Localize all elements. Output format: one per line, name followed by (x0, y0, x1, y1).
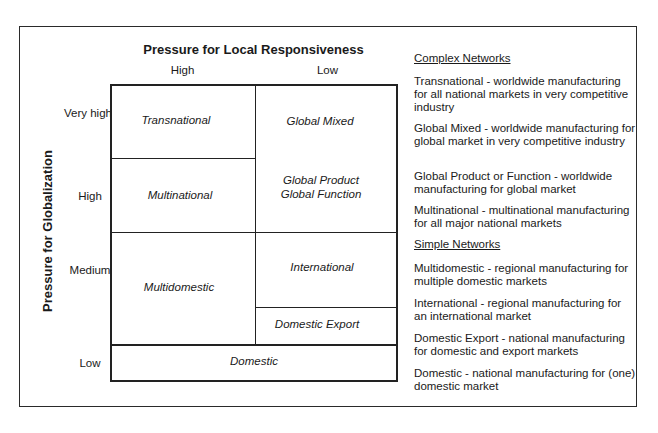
cell-global-product-line2: Global Function (281, 187, 362, 201)
legend-header-complex: Complex Networks (414, 52, 511, 65)
legend-item-global-product: Global Product or Function - worldwide m… (414, 170, 636, 196)
cell-domestic-export: Domestic Export (275, 317, 359, 331)
legend-item-domestic: Domestic - national manufacturing for (o… (414, 367, 636, 393)
grid-border-bottom (110, 380, 398, 382)
cell-global-product: Global Product Global Function (281, 173, 362, 201)
row-label-very-high: Very high (63, 107, 113, 120)
grid-divider-left-1 (110, 158, 256, 159)
legend-item-multidomestic: Multidomestic - regional manufacturing f… (414, 262, 636, 288)
grid-border-top (110, 84, 398, 86)
cell-domestic: Domestic (230, 354, 278, 368)
legend-item-transnational: Transnational - worldwide manufacturing … (414, 75, 636, 114)
top-axis-title: Pressure for Local Responsiveness (110, 42, 397, 57)
legend-item-global-mixed: Global Mixed - worldwide manufacturing f… (414, 122, 636, 148)
grid-divider-right (255, 307, 398, 308)
cell-global-product-line1: Global Product (281, 173, 362, 187)
grid-center-divider (255, 84, 256, 344)
grid-divider-domestic (110, 344, 398, 346)
cell-transnational: Transnational (142, 113, 211, 127)
legend-header-simple: Simple Networks (414, 238, 500, 251)
cell-multinational: Multinational (148, 188, 213, 202)
legend-item-international: International - regional manufacturing f… (414, 297, 636, 323)
cell-multidomestic: Multidomestic (144, 280, 214, 294)
side-axis-title: Pressure for Globalization (40, 150, 55, 312)
legend-item-domestic-export: Domestic Export - national manufacturing… (414, 332, 636, 358)
column-label-low: Low (255, 64, 400, 76)
legend-item-multinational: Multinational - multinational manufactur… (414, 204, 636, 230)
cell-international: International (290, 260, 353, 274)
column-label-high: High (110, 64, 255, 76)
matrix-grid: Transnational Global Mixed Multinational… (110, 84, 398, 382)
cell-global-mixed: Global Mixed (286, 114, 353, 128)
grid-divider-full (110, 232, 398, 233)
